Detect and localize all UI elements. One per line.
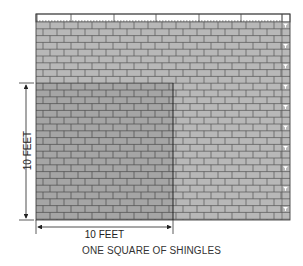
shingle-roof-diagram xyxy=(0,0,303,266)
one-square-highlight xyxy=(36,83,173,220)
width-dimension-label: 10 FEET xyxy=(36,229,173,240)
height-dimension-label: 10 FEET xyxy=(22,126,33,176)
figure-caption: ONE SQUARE OF SHINGLES xyxy=(0,245,303,256)
